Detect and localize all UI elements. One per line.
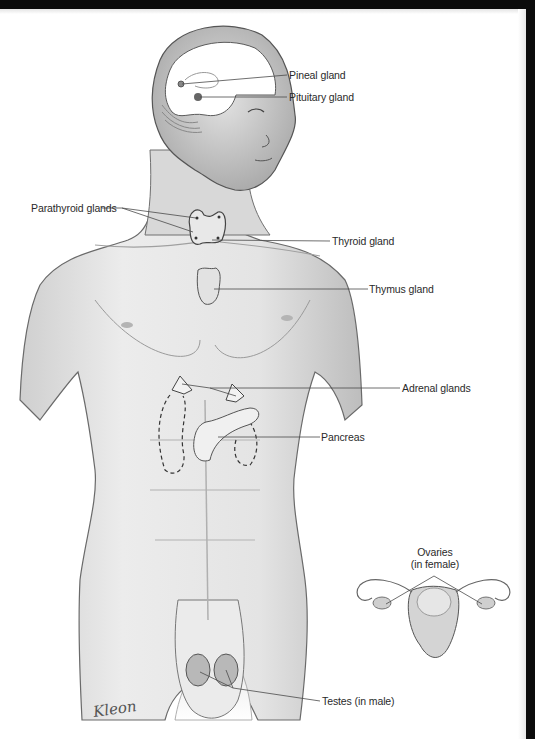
testis-left: [186, 654, 210, 686]
body-figure: [20, 215, 362, 720]
label-pituitary-gland: Pituitary gland: [289, 91, 354, 103]
ovaries-inset: [357, 580, 510, 658]
label-ovaries: Ovaries (in female): [400, 546, 470, 570]
label-thymus-gland: Thymus gland: [369, 283, 434, 295]
anatomy-illustration: [0, 0, 535, 739]
label-pancreas: Pancreas: [321, 431, 365, 443]
label-thyroid-gland: Thyroid gland: [332, 235, 394, 247]
label-testes: Testes (in male): [322, 695, 395, 707]
label-adrenal-glands: Adrenal glands: [402, 382, 471, 394]
label-ovaries-line1: Ovaries: [400, 546, 470, 558]
label-ovaries-line2: (in female): [400, 558, 470, 570]
label-parathyroid-glands: Parathyroid glands: [31, 202, 117, 214]
label-pineal-gland: Pineal gland: [289, 69, 346, 81]
thymus-gland: [197, 268, 220, 304]
